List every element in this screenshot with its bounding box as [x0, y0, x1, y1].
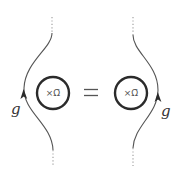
- equals-sign: [84, 90, 98, 96]
- lhs-strand-label: g: [11, 100, 21, 118]
- rhs-diagram: ×Ω̄ g: [115, 17, 171, 166]
- lhs-loop-label: ×Ω̄: [46, 88, 61, 98]
- skein-diagram: g ×Ω̄ ×Ω̄ g: [0, 0, 180, 172]
- rhs-arrow-up-icon: [155, 92, 162, 102]
- lhs-diagram: g ×Ω̄: [11, 17, 69, 166]
- rhs-loop-label: ×Ω̄: [124, 88, 139, 98]
- rhs-strand-label: g: [161, 102, 171, 120]
- lhs-arrow-up-icon: [20, 89, 27, 99]
